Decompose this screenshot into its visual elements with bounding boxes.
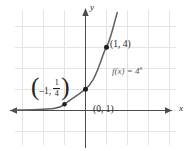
data-point-0-1 (83, 87, 88, 92)
coord-x-value: –1, (39, 87, 52, 97)
y-axis-label: y (90, 3, 94, 12)
arrow-right-icon (165, 107, 172, 113)
function-equation-exponent: x (140, 64, 143, 71)
y-axis (82, 8, 88, 148)
point-label-0-1: (0, 1) (93, 105, 114, 115)
data-point-neg1-quarter (62, 102, 67, 107)
arrow-up-icon (82, 8, 88, 16)
graph-canvas (0, 0, 190, 151)
exponential-function-figure: x y (1, 4) (0, 1) f(x) = 4x ( –1, 1 4 ) (0, 0, 190, 151)
close-paren: ) (61, 77, 69, 98)
fraction-numerator: 1 (55, 79, 59, 87)
function-equation-label: f(x) = 4x (112, 65, 142, 76)
function-equation-base: f(x) = 4 (112, 66, 140, 76)
x-axis-label: x (179, 104, 183, 113)
fraction-denominator: 4 (55, 90, 59, 98)
fraction-one-quarter: 1 4 (52, 79, 61, 98)
point-label-neg1-quarter: ( –1, 1 4 ) (31, 78, 70, 99)
point-label-1-4: (1, 4) (110, 40, 131, 50)
open-paren: ( (31, 77, 39, 98)
data-point-1-4 (104, 45, 109, 50)
